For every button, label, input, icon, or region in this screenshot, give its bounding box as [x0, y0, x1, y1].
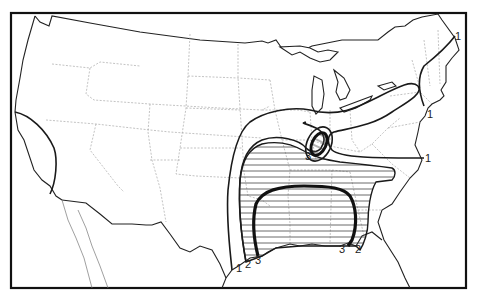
- label-1-carolina: 1: [425, 152, 431, 164]
- lake-superior: [280, 46, 338, 62]
- label-1-texas: 1: [236, 262, 242, 274]
- lake-michigan: [312, 76, 324, 114]
- isoline-west-coast: [15, 112, 56, 194]
- label-3-ohio: 3: [305, 150, 311, 162]
- mexico-border: [62, 200, 226, 278]
- label-3-florida: 3: [339, 243, 345, 255]
- label-1-new-jersey: 1: [427, 108, 433, 120]
- isoline-map: 1 2 3 3 2 3 1 1 1: [0, 0, 477, 298]
- baja-california: [62, 200, 108, 288]
- label-2-florida: 2: [355, 243, 361, 255]
- isoline-1-new-england: [420, 36, 456, 106]
- lake-huron: [334, 70, 350, 100]
- label-2-texas: 2: [245, 258, 251, 270]
- us-outline: [15, 14, 459, 288]
- label-3-texas: 3: [255, 254, 261, 266]
- label-1-maine: 1: [455, 30, 461, 42]
